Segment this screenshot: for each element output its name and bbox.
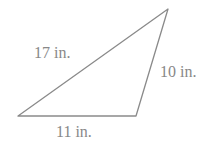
- side-label-10: 10 in.: [160, 64, 196, 80]
- side-label-17: 17 in.: [34, 45, 70, 61]
- triangle: [18, 9, 168, 116]
- side-label-11: 11 in.: [56, 124, 92, 140]
